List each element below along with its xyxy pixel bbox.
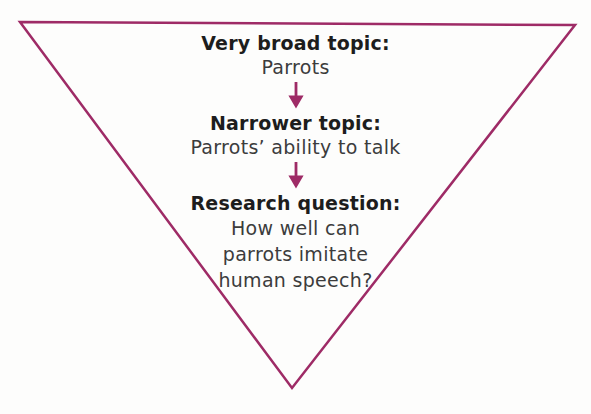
very-broad-topic-heading: Very broad topic: xyxy=(201,31,390,55)
down-arrow-icon xyxy=(287,82,305,109)
level-narrower-topic: Narrower topic: Parrots’ ability to talk xyxy=(190,111,400,160)
funnel-content: Very broad topic: Parrots Narrower topic… xyxy=(0,31,591,293)
research-question-line-3: human speech? xyxy=(190,267,400,293)
narrower-topic-text: Parrots’ ability to talk xyxy=(190,135,400,160)
down-arrow-shape xyxy=(288,162,303,189)
level-very-broad-topic: Very broad topic: Parrots xyxy=(201,31,390,80)
down-arrow-shape xyxy=(288,82,303,109)
level-research-question: Research question: How well can parrots … xyxy=(190,191,400,293)
research-question-line-2: parrots imitate xyxy=(190,241,400,267)
research-question-heading: Research question: xyxy=(190,191,400,215)
narrower-topic-heading: Narrower topic: xyxy=(190,111,400,135)
very-broad-topic-text: Parrots xyxy=(201,55,390,80)
funnel-diagram: Very broad topic: Parrots Narrower topic… xyxy=(0,0,591,414)
research-question-line-1: How well can xyxy=(190,215,400,241)
down-arrow-icon xyxy=(287,162,305,189)
